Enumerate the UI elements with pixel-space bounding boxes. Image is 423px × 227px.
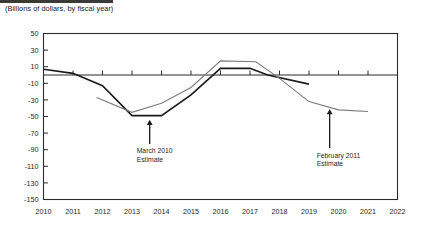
y-tick-label: 30 xyxy=(31,46,39,55)
y-tick-label: -110 xyxy=(25,162,39,171)
plot-area: 503010-10-30-50-70-90-110-130-1502010201… xyxy=(0,0,423,227)
y-tick-label: -10 xyxy=(28,79,38,88)
line-chart-svg: 503010-10-30-50-70-90-110-130-1502010201… xyxy=(0,0,423,227)
up-arrow-icon xyxy=(147,120,153,125)
y-tick-label: -130 xyxy=(24,179,38,188)
y-tick-label: -70 xyxy=(28,129,38,138)
annotation-label-line2: Estimate xyxy=(317,160,344,167)
annotation-label-line1: February 2011 xyxy=(317,152,361,160)
x-tick-label: 2011 xyxy=(65,207,80,216)
x-tick-label: 2022 xyxy=(390,207,406,216)
y-tick-label: -150 xyxy=(24,195,38,204)
x-tick-label: 2021 xyxy=(360,207,376,216)
x-tick-label: 2012 xyxy=(95,207,111,216)
x-tick-label: 2013 xyxy=(124,207,140,216)
plot-frame xyxy=(44,34,398,200)
y-tick-label: -90 xyxy=(28,145,38,154)
x-tick-label: 2014 xyxy=(154,207,170,216)
chart-page: (Billions of dollars, by fiscal year) 50… xyxy=(0,0,423,227)
y-tick-label: 50 xyxy=(31,29,39,38)
x-tick-label: 2020 xyxy=(331,207,347,216)
y-tick-label: 10 xyxy=(31,62,39,71)
annotation-label-line2: Estimate xyxy=(137,156,164,163)
x-tick-label: 2019 xyxy=(301,207,317,216)
y-tick-label: -50 xyxy=(28,112,38,121)
x-tick-label: 2010 xyxy=(36,207,52,216)
x-tick-label: 2016 xyxy=(213,207,229,216)
y-tick-label: -30 xyxy=(28,96,38,105)
x-tick-label: 2017 xyxy=(242,207,258,216)
x-tick-label: 2015 xyxy=(183,207,199,216)
up-arrow-icon xyxy=(327,109,333,114)
annotation-label-line1: March 2010 xyxy=(137,147,173,154)
x-tick-label: 2018 xyxy=(272,207,288,216)
